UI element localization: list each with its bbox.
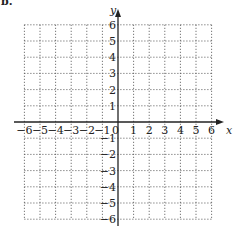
x-tick-label: 3: [161, 124, 168, 137]
coordinate-plane: −6−5−4−3−2−10123456123456−1−2−3−4−5−6 x …: [0, 0, 237, 233]
y-tick-label: 1: [109, 100, 116, 113]
y-tick-label: −5: [100, 197, 116, 210]
x-tick-label: 2: [146, 124, 153, 137]
x-axis-arrow-icon: [216, 119, 224, 125]
y-tick-label: 2: [109, 84, 116, 97]
x-tick-label: −5: [32, 124, 48, 137]
y-tick-label: 5: [109, 35, 116, 48]
y-axis-label: y: [109, 4, 117, 17]
x-tick-label: −2: [79, 124, 95, 137]
y-tick-label: −1: [100, 132, 116, 145]
x-tick-label: 4: [177, 124, 184, 137]
axes: [14, 9, 224, 226]
x-tick-label: −4: [47, 124, 63, 137]
x-tick-label: −3: [63, 124, 79, 137]
x-tick-label: −6: [16, 124, 32, 137]
x-tick-label: 5: [193, 124, 200, 137]
x-axis-label: x: [226, 124, 233, 137]
y-tick-label: 3: [109, 67, 116, 80]
y-tick-label: 6: [109, 19, 116, 32]
x-tick-label: 1: [130, 124, 137, 137]
y-tick-label: −3: [100, 165, 116, 178]
y-tick-label: −6: [100, 213, 116, 226]
y-tick-label: −2: [100, 148, 116, 161]
y-tick-label: 4: [109, 51, 116, 64]
y-tick-label: −4: [100, 181, 116, 194]
x-tick-label: 6: [208, 124, 215, 137]
